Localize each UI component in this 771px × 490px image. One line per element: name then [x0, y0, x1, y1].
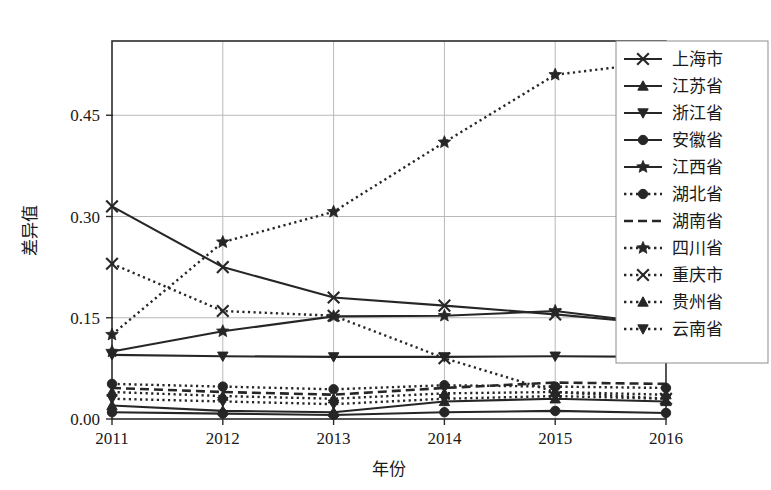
legend-label-贵州省: 贵州省 — [672, 293, 723, 312]
series-line-湖北省 — [112, 384, 666, 389]
data-point-安徽省-2014 — [440, 408, 449, 417]
marker-circle — [440, 408, 449, 417]
legend-label-云南省: 云南省 — [672, 320, 723, 339]
legend-label-湖北省: 湖北省 — [672, 185, 723, 204]
legend-marker-circle-icon — [638, 135, 647, 144]
series-湖北省 — [107, 379, 670, 394]
legend-label-浙江省: 浙江省 — [672, 104, 723, 123]
x-axis-title-text: 年份 — [372, 460, 406, 479]
series-安徽省 — [107, 406, 670, 419]
y-axis-title: 差异值 — [21, 205, 40, 256]
x-tick-label-2014: 2014 — [427, 429, 462, 448]
series-重庆市 — [106, 258, 672, 405]
chart-container: 0.000.150.300.45 20112012201320142015201… — [0, 0, 771, 490]
y-axis-tick-labels: 0.000.150.300.45 — [70, 106, 100, 429]
plot-frame — [112, 41, 666, 419]
marker-circle — [638, 135, 647, 144]
series-line-安徽省 — [112, 411, 666, 415]
x-axis-tick-labels: 201120122013201420152016 — [95, 429, 683, 448]
data-series-group — [106, 55, 673, 420]
y-tick-label-0.15: 0.15 — [70, 309, 100, 328]
y-axis-title-text: 差异值 — [21, 205, 40, 256]
series-江西省 — [106, 304, 673, 356]
legend-label-湖南省: 湖南省 — [672, 212, 723, 231]
legend-label-四川省: 四川省 — [672, 239, 723, 258]
marker-circle — [329, 410, 338, 419]
x-axis-title: 年份 — [372, 460, 406, 479]
x-tick-label-2015: 2015 — [538, 429, 572, 448]
series-line-重庆市 — [112, 264, 666, 399]
plot-area-border — [112, 41, 666, 419]
legend-label-安徽省: 安徽省 — [672, 131, 723, 150]
data-point-安徽省-2015 — [551, 406, 560, 415]
series-line-浙江省 — [112, 355, 666, 357]
series-line-江苏省 — [112, 399, 666, 413]
legend-label-江西省: 江西省 — [672, 158, 723, 177]
legend-label-上海市: 上海市 — [672, 50, 723, 69]
data-point-安徽省-2013 — [329, 410, 338, 419]
legend-label-江苏省: 江苏省 — [672, 77, 723, 96]
y-tick-label-0.00: 0.00 — [70, 410, 100, 429]
data-point-安徽省-2012 — [218, 409, 227, 418]
data-point-安徽省-2016 — [661, 408, 670, 417]
marker-circle — [107, 408, 116, 417]
series-上海市 — [106, 201, 672, 331]
marker-circle — [661, 408, 670, 417]
series-line-四川省 — [112, 61, 666, 334]
marker-circle — [218, 409, 227, 418]
marker-triangle-down — [107, 395, 117, 404]
legend-marker-circle-icon — [638, 189, 647, 198]
x-tick-label-2012: 2012 — [206, 429, 240, 448]
marker-circle — [638, 189, 647, 198]
difference-value-line-chart: 0.000.150.300.45 20112012201320142015201… — [0, 0, 771, 490]
series-浙江省 — [107, 351, 671, 362]
x-tick-label-2016: 2016 — [649, 429, 683, 448]
y-tick-label-0.45: 0.45 — [70, 106, 100, 125]
x-tick-label-2011: 2011 — [95, 429, 128, 448]
legend: 上海市江苏省浙江省安徽省江西省湖北省湖南省四川省重庆市贵州省云南省 — [616, 41, 768, 363]
data-point-安徽省-2011 — [107, 408, 116, 417]
marker-circle — [551, 406, 560, 415]
x-tick-label-2013: 2013 — [317, 429, 351, 448]
legend-label-重庆市: 重庆市 — [672, 266, 723, 285]
y-tick-label-0.30: 0.30 — [70, 208, 100, 227]
data-point-云南省-2011 — [107, 395, 117, 404]
grid-lines — [112, 41, 666, 419]
